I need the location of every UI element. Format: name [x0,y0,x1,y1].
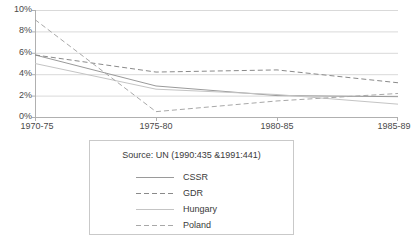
legend-line-swatch-icon [136,204,174,214]
y-axis-tick-labels: 10%8%6%4%2%0% [0,0,32,127]
y-axis-tick-label: 0% [2,112,32,121]
x-axis-tick-labels: 1970-751975-801980-851985-89 [0,121,412,137]
y-axis-tick-label: 6% [2,48,32,57]
legend-entry-list: CSSRGDRHungaryPoland [90,169,293,233]
legend-item-label: Hungary [183,204,217,214]
legend-line-swatch-icon [136,188,174,198]
legend-item-cssr[interactable]: CSSR [136,169,293,185]
legend-line-swatch-icon [136,172,174,182]
x-axis-tick-label: 1975-80 [139,121,172,131]
y-axis-tick-label: 8% [2,26,32,35]
line-chart: 10%8%6%4%2%0% 1970-751975-801980-851985-… [0,0,412,247]
plot-area: 10%8%6%4%2%0% 1970-751975-801980-851985-… [0,0,412,143]
legend-source-text: Source: UN (1990:435 &1991:441) [90,150,293,160]
legend-item-label: GDR [183,188,203,198]
legend-item-label: CSSR [183,172,208,182]
x-axis-tick-label: 1970-75 [20,121,53,131]
legend-item-poland[interactable]: Poland [136,217,293,233]
x-axis-tick-label: 1985-89 [377,121,410,131]
legend-item-hungary[interactable]: Hungary [136,201,293,217]
series-line-hungary [35,64,398,105]
series-line-poland [35,20,398,112]
y-axis-tick-label: 10% [2,5,32,14]
y-axis-tick-label: 2% [2,91,32,100]
y-axis-tick-label: 4% [2,69,32,78]
legend-item-label: Poland [183,220,211,230]
x-axis-tick-label: 1980-85 [260,121,293,131]
legend: Source: UN (1990:435 &1991:441) CSSRGDRH… [89,140,294,235]
legend-item-gdr[interactable]: GDR [136,185,293,201]
legend-line-swatch-icon [136,220,174,230]
